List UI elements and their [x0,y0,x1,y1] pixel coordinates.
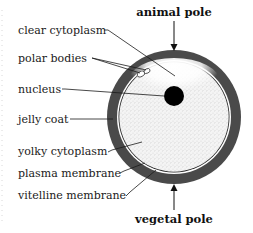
label-yolky-cytoplasm: yolky cytoplasm [17,145,108,158]
animal-pole-label: animal pole [136,5,212,19]
label-clear-cytoplasm: clear cytoplasm [18,24,107,37]
egg-diagram: animal pole vegetal pole clear cytoplasm… [0,0,253,233]
label-jelly-coat: jelly coat [16,113,69,126]
nucleus [164,86,184,106]
vegetal-pole-arrow [171,184,178,210]
label-nucleus: nucleus [18,83,61,96]
animal-pole-arrow [171,21,178,51]
label-plasma-membrane: plasma membrane [18,167,121,180]
label-polar-bodies: polar bodies [18,52,87,65]
vegetal-pole-label: vegetal pole [134,212,213,226]
label-vitelline-membrane: vitelline membrane [17,189,126,202]
